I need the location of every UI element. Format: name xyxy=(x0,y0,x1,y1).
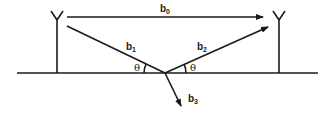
angle-arc-right xyxy=(184,64,186,73)
label-b1: b1 xyxy=(126,41,136,53)
label-b3: b3 xyxy=(188,93,198,105)
angle-theta-incident: θ xyxy=(134,62,140,73)
angle-arc-left xyxy=(144,64,146,73)
transmitted-path-b3 xyxy=(165,73,181,106)
receiver-antenna-icon xyxy=(273,11,285,73)
incident-path-b1 xyxy=(67,26,165,73)
transmitter-antenna-icon xyxy=(51,11,63,73)
reflected-path-b2 xyxy=(165,27,268,73)
label-b0: b0 xyxy=(160,3,170,15)
label-b2: b2 xyxy=(197,41,207,53)
angle-theta-reflected: θ xyxy=(190,62,196,73)
propagation-diagram: b0 b1 b2 b3 θ θ xyxy=(0,0,330,117)
